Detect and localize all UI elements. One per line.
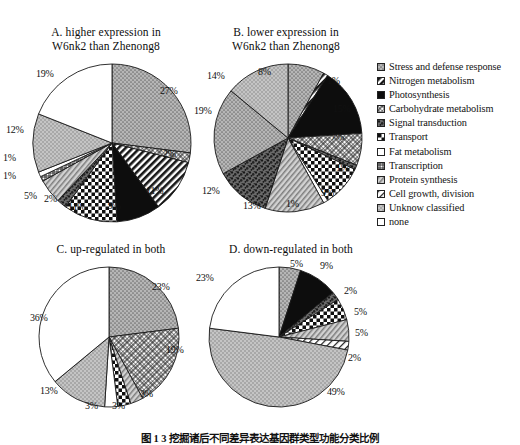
pie-percent-label: 1% [3, 152, 16, 163]
legend-item-nitrogen: Nitrogen metabolism [377, 74, 519, 88]
pie-slice [112, 64, 191, 153]
pie-percent-label: 8% [258, 66, 271, 77]
figure-caption: 图 1 3 挖掘诸后不同差异表达基因群类型功能分类比例 [0, 430, 520, 445]
legend-swatch-photosynthesis [377, 91, 385, 99]
legend-swatch-nitrogen [377, 77, 385, 85]
legend-item-transport: Transport [377, 130, 519, 144]
pie-percent-label: 15% [333, 103, 351, 114]
pie-percent-label: 14% [207, 70, 225, 81]
legend-label-none: none [389, 215, 409, 229]
pie-percent-label: 49% [327, 386, 345, 397]
chart-b-title: B. lower expression in W6nk2 than Zhenon… [196, 26, 376, 53]
legend-label-unknown: Unknow classified [389, 201, 464, 215]
legend-swatch-fat [377, 148, 385, 156]
pie-percent-label: 23% [152, 281, 170, 292]
pie-percent-label: 19% [194, 105, 212, 116]
legend-label-transcription: Transcription [389, 159, 443, 173]
legend-label-signal: Signal transduction [389, 116, 467, 130]
legend-swatch-protein [377, 176, 385, 184]
legend-label-fat: Fat metabolism [389, 145, 451, 159]
legend-swatch-cellgrowth [377, 190, 385, 198]
pie-percent-label: 1% [336, 162, 349, 173]
pie-percent-label: 23% [196, 272, 214, 283]
chart-d-title-line1: D. down-regulated in both [196, 243, 386, 257]
pie-percent-label: 9% [320, 260, 333, 271]
pie-slice [210, 267, 279, 337]
pie-percent-label: 11% [146, 185, 163, 196]
pie-percent-label: 7% [331, 131, 344, 142]
pie-percent-label: 3% [140, 388, 153, 399]
chart-a-title-line2: W6nk2 than Zhenong8 [16, 40, 196, 54]
pie-percent-label: 12% [202, 185, 220, 196]
legend-label-transport: Transport [389, 130, 428, 144]
pie-percent-label: 9% [108, 200, 121, 211]
figure-panel: A. higher expression in W6nk2 than Zheno… [0, 0, 520, 445]
pie-percent-label: 5% [290, 258, 303, 269]
pie-percent-label: 1% [327, 75, 340, 86]
pie-percent-label: 19% [36, 68, 54, 79]
legend-item-unknown: Unknow classified [377, 201, 519, 215]
pie-percent-label: 9% [321, 187, 334, 198]
pie-percent-label: 3% [112, 400, 125, 411]
legend-swatch-transport [377, 133, 385, 141]
legend-label-carbohydrate: Carbohydrate metabolism [389, 102, 493, 116]
pie-percent-label: 5% [354, 306, 367, 317]
legend-item-carbohydrate: Carbohydrate metabolism [377, 102, 519, 116]
legend-label-cellgrowth: Cell growth, division [389, 187, 474, 201]
legend-item-protein: Protein synthesis [377, 173, 519, 187]
pie-percent-label: 5% [355, 327, 368, 338]
legend-item-stress: Stress and defense response [377, 60, 519, 74]
legend: Stress and defense responseNitrogen meta… [377, 60, 519, 229]
pie-percent-label: 2% [348, 352, 361, 363]
pie-percent-label: 2% [163, 148, 176, 159]
chart-d-title: D. down-regulated in both [196, 243, 386, 257]
pie-percent-label: 1% [3, 170, 16, 181]
pie-percent-label: 12% [6, 124, 24, 135]
legend-label-protein: Protein synthesis [389, 173, 457, 187]
pie-percent-label: 27% [160, 85, 178, 96]
pie-percent-label: 1% [286, 198, 299, 209]
chart-c-title: C. up-regulated in both [16, 243, 206, 257]
legend-swatch-carbohydrate [377, 105, 385, 113]
legend-item-transcription: Transcription [377, 159, 519, 173]
pie-slice [109, 267, 178, 337]
pie-percent-label: 2% [344, 285, 357, 296]
pie-percent-label: 36% [30, 312, 48, 323]
pie-percent-label: 13% [40, 385, 58, 396]
legend-item-none: none [377, 215, 519, 229]
legend-item-photosynthesis: Photosynthesis [377, 88, 519, 102]
legend-swatch-stress [377, 63, 385, 71]
legend-label-photosynthesis: Photosynthesis [389, 88, 449, 102]
chart-a-title-line1: A. higher expression in [16, 26, 196, 40]
pie-percent-label: 11% [68, 201, 85, 212]
chart-b-title-line2: W6nk2 than Zhenong8 [196, 40, 376, 54]
legend-swatch-signal [377, 119, 385, 127]
chart-c-title-line1: C. up-regulated in both [16, 243, 206, 257]
legend-swatch-transcription [377, 162, 385, 170]
legend-item-fat: Fat metabolism [377, 145, 519, 159]
legend-swatch-unknown [377, 204, 385, 212]
chart-b-title-line1: B. lower expression in [196, 26, 376, 40]
legend-label-nitrogen: Nitrogen metabolism [389, 74, 474, 88]
pie-percent-label: 3% [85, 400, 98, 411]
pie-percent-label: 2% [44, 193, 57, 204]
pie-percent-label: 19% [166, 344, 184, 355]
chart-a-title: A. higher expression in W6nk2 than Zheno… [16, 26, 196, 53]
pie-percent-label: 13% [243, 200, 261, 211]
legend-item-signal: Signal transduction [377, 116, 519, 130]
pie-percent-label: 5% [24, 190, 37, 201]
legend-swatch-none [377, 218, 385, 226]
legend-item-cellgrowth: Cell growth, division [377, 187, 519, 201]
legend-label-stress: Stress and defense response [389, 60, 501, 74]
